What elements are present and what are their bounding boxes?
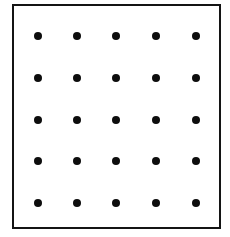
grid-dot [152,116,160,124]
grid-dot [192,157,200,165]
grid-dot [152,157,160,165]
grid-dot [112,199,120,207]
grid-dot [34,74,42,82]
grid-dot [152,74,160,82]
grid-dot [34,199,42,207]
grid-dot [192,74,200,82]
grid-dot [112,116,120,124]
grid-dot [192,116,200,124]
grid-dot [112,32,120,40]
grid-dot [152,32,160,40]
grid-dot [112,74,120,82]
grid-dot [73,116,81,124]
grid-dot [34,116,42,124]
grid-dot [192,32,200,40]
grid-dot [34,32,42,40]
grid-dot [34,157,42,165]
grid-dot [73,74,81,82]
grid-dot [112,157,120,165]
grid-dot [192,199,200,207]
grid-dot [73,199,81,207]
grid-dot [73,157,81,165]
figure-canvas [0,0,230,237]
grid-dot [152,199,160,207]
grid-dot [73,32,81,40]
